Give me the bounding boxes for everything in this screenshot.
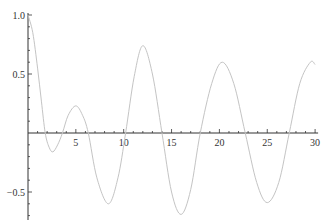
y-tick-label: 1.0 [13, 10, 26, 21]
x-tick-label: 30 [310, 137, 320, 148]
x-tick-label: 5 [73, 137, 78, 148]
y-tick-label: 0.5 [13, 69, 26, 80]
x-tick-label: 15 [167, 137, 177, 148]
x-tick-label: 25 [262, 137, 272, 148]
x-tick-label: 20 [214, 137, 224, 148]
line-chart: 510152025301.00.5−0.5 [0, 0, 327, 220]
axes [28, 13, 318, 220]
y-tick-label: −0.5 [7, 187, 25, 198]
axis-ticks [28, 15, 315, 216]
tick-labels: 510152025301.00.5−0.5 [7, 10, 320, 198]
data-line [28, 15, 315, 214]
